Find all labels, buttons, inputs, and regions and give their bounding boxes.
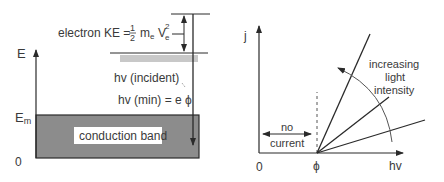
energy-axis-label: E xyxy=(17,46,26,61)
incident-label: hv (incident) xyxy=(114,71,179,85)
ke-velocity-sub: e xyxy=(165,33,170,42)
photoelectric-diagram: conduction band E Em 0 electron KE = 1 2… xyxy=(0,0,444,182)
intensity-label-2: light xyxy=(385,71,405,83)
ke-label: electron KE = xyxy=(58,26,130,40)
ke-frac-num: 1 xyxy=(130,23,135,33)
band-label: conduction band xyxy=(79,129,167,143)
vacuum-shelf xyxy=(120,55,198,62)
j-axis-label: j xyxy=(243,29,247,43)
current-vs-frequency-plot: j hv 0 ϕ no current increasing light int… xyxy=(243,26,425,174)
ke-velocity-sup: 2 xyxy=(165,22,170,31)
no-current-label-1: no xyxy=(281,121,293,133)
intensity-label-3: intensity xyxy=(374,84,415,96)
hv-axis-label: hv xyxy=(389,159,402,173)
ke-mass: me xyxy=(140,26,155,41)
threshold-label: ϕ xyxy=(313,159,320,173)
no-current-label-2: current xyxy=(270,137,304,149)
wavy-tick xyxy=(182,83,185,87)
intensity-line-high xyxy=(317,34,370,153)
em-label: Em xyxy=(15,110,31,126)
intensity-label-1: increasing xyxy=(369,58,419,70)
origin-label-left: 0 xyxy=(15,155,22,169)
origin-label-right: 0 xyxy=(256,160,263,174)
energy-level-diagram: conduction band E Em 0 electron KE = 1 2… xyxy=(15,14,210,169)
min-energy-label: hv (min) = e ϕ xyxy=(118,93,192,107)
intensity-line-low xyxy=(317,120,425,153)
intensity-line-mid xyxy=(317,97,389,153)
ke-frac-den: 2 xyxy=(130,33,135,43)
